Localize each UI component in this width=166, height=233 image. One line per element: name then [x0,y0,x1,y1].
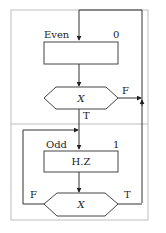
odd-state-output: 1 [113,139,119,150]
odd-state-name: Odd [46,139,68,150]
upper-condition-text: X [76,93,85,104]
even-state-name: Even [44,29,70,40]
lower-true-label: T [124,189,131,200]
lower-false-label: F [30,189,37,200]
flowchart-diagram: Even 0 X F T Odd 1 H.Z X T F [0,0,166,233]
upper-false-label: F [122,85,129,96]
even-state-output: 0 [113,29,119,40]
lower-condition-text: X [76,199,85,210]
odd-action-text: H.Z [72,156,91,167]
upper-true-label: T [83,110,90,121]
even-state-box [44,42,118,64]
